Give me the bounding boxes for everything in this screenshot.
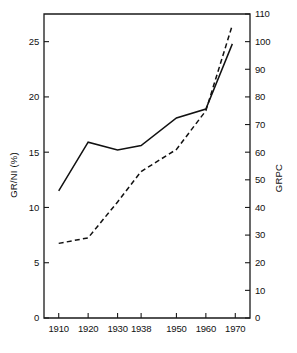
line-chart: 0510152025 0102030405060708090100110 191… [0, 0, 297, 353]
left-tick-label: 10 [29, 202, 39, 213]
series-line-grpc [59, 25, 233, 243]
right-axis-tick-labels: 0102030405060708090100110 [255, 8, 270, 323]
y-axis-title: GR/NI (%) [8, 152, 19, 198]
left-tick-label: 5 [34, 257, 39, 268]
right-tick-label: 110 [255, 8, 270, 19]
x-tick-label: 1930 [107, 323, 127, 334]
right-tick-label: 10 [255, 285, 265, 296]
x-axis-ticks [59, 313, 236, 318]
right-tick-label: 90 [255, 64, 265, 75]
x-tick-label: 1920 [78, 323, 98, 334]
left-tick-label: 15 [29, 147, 39, 158]
right-tick-label: 0 [255, 312, 260, 323]
x-tick-label: 1970 [225, 323, 245, 334]
right-tick-label: 50 [255, 174, 265, 185]
series-line-gr-ni [59, 44, 233, 191]
right-tick-label: 20 [255, 257, 265, 268]
right-tick-label: 100 [255, 36, 270, 47]
left-tick-label: 25 [29, 36, 39, 47]
right-tick-label: 30 [255, 229, 265, 240]
left-tick-label: 0 [34, 312, 39, 323]
left-tick-label: 20 [29, 91, 39, 102]
x-tick-label: 1938 [131, 323, 151, 334]
left-axis-tick-labels: 0510152025 [29, 36, 39, 323]
chart-figure: 0510152025 0102030405060708090100110 191… [0, 0, 297, 353]
y2-axis-title: GRPC [273, 164, 284, 192]
right-tick-label: 60 [255, 147, 265, 158]
right-tick-label: 40 [255, 202, 265, 213]
right-tick-label: 80 [255, 91, 265, 102]
right-tick-label: 70 [255, 119, 265, 130]
axis-frame [44, 14, 250, 318]
x-tick-label: 1910 [49, 323, 69, 334]
left-axis-ticks [44, 42, 49, 318]
x-axis-tick-labels: 1910192019301938195019601970 [49, 323, 246, 334]
x-tick-label: 1950 [166, 323, 186, 334]
right-axis-ticks [245, 14, 250, 318]
x-tick-label: 1960 [196, 323, 216, 334]
